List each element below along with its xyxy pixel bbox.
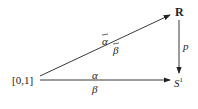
label-p: p <box>183 41 189 52</box>
node-reals: R <box>175 7 184 18</box>
label-beta-tilde: β <box>113 45 118 56</box>
label-alpha-tilde: α <box>102 36 108 47</box>
diagram-arrows <box>0 0 198 109</box>
label-alpha: α <box>92 70 98 81</box>
circle-superscript: 1 <box>180 76 184 84</box>
label-beta: β <box>92 84 97 95</box>
node-circle: S1 <box>174 75 183 89</box>
node-interval: [0,1] <box>12 75 33 86</box>
